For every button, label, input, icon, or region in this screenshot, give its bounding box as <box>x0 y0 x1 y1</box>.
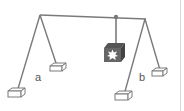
left-front-foot <box>8 88 25 97</box>
top-beam <box>40 15 146 19</box>
right-back-leg <box>145 19 160 70</box>
frame-border <box>180 0 181 111</box>
hanging-box <box>104 43 125 62</box>
right-front-leg <box>124 19 145 95</box>
label-a: a <box>35 71 41 83</box>
label-b: b <box>139 71 145 83</box>
left-back-leg <box>40 15 57 66</box>
physics-diagram: a b <box>0 0 184 111</box>
right-back-foot <box>152 68 167 76</box>
diagram-canvas <box>0 0 184 111</box>
right-front-foot <box>115 91 132 100</box>
left-back-foot <box>50 63 66 71</box>
